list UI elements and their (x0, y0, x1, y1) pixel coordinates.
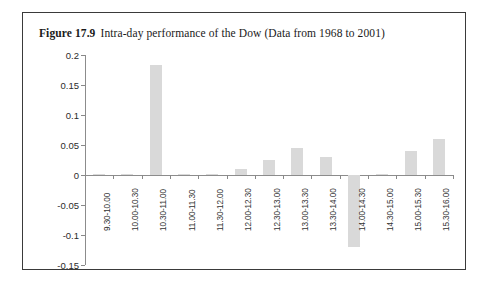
y-axis-tick (81, 85, 85, 86)
y-axis-tick (81, 265, 85, 266)
bar (121, 174, 133, 175)
bar (291, 148, 303, 175)
bar (376, 174, 388, 175)
x-axis-tick (198, 175, 199, 179)
bar (405, 151, 417, 175)
figure-caption: Figure 17.9Intra-day performance of the … (39, 27, 385, 39)
y-axis-tick-label: -0.15 (19, 260, 79, 271)
y-axis-tick-label: 0.1 (19, 110, 79, 121)
bar (93, 174, 105, 175)
x-axis-category-label: 10.00-10.30 (131, 188, 140, 231)
x-axis-category-label: 15.30-16.00 (442, 188, 451, 231)
x-axis-tick (283, 175, 284, 179)
x-axis-tick (340, 175, 341, 179)
bar (235, 169, 247, 175)
x-axis-category-label: 13.30-14.00 (329, 188, 338, 231)
x-axis-tick (396, 175, 397, 179)
x-axis-tick (255, 175, 256, 179)
x-axis-tick (368, 175, 369, 179)
y-axis-tick (81, 145, 85, 146)
y-axis-tick-label: 0 (19, 170, 79, 181)
y-axis-tick (81, 55, 85, 56)
x-axis-tick (113, 175, 114, 179)
bar (178, 174, 190, 175)
x-axis-category-label: 12.00-12.30 (244, 188, 253, 231)
x-axis-category-label: 12.30-13.00 (273, 188, 282, 231)
y-axis-tick-label: -0.1 (19, 230, 79, 241)
chart-plot-area: 0.20.150.10.050-0.05-0.1-0.159.30-10.001… (85, 55, 453, 265)
x-axis-category-label: 14.30-15.00 (386, 188, 395, 231)
bar (206, 174, 218, 175)
bar (263, 160, 275, 175)
bar (433, 139, 445, 175)
x-axis-category-label: 15.00-15.30 (414, 188, 423, 231)
y-axis-tick-label: 0.15 (19, 80, 79, 91)
x-axis-tick (425, 175, 426, 179)
x-axis-tick (142, 175, 143, 179)
figure-caption-text: Intra-day performance of the Dow (Data f… (100, 27, 384, 39)
y-axis-tick (81, 205, 85, 206)
figure-number: Figure 17.9 (39, 27, 95, 39)
y-axis-tick (81, 235, 85, 236)
x-axis-tick (453, 175, 454, 179)
figure-frame: Figure 17.9Intra-day performance of the … (22, 12, 466, 270)
x-axis-category-label: 10.30-11.00 (159, 189, 168, 231)
y-axis-tick-label: -0.05 (19, 200, 79, 211)
bar (320, 157, 332, 175)
x-axis-tick (311, 175, 312, 179)
x-axis-category-label: 9.30-10.00 (103, 193, 112, 231)
x-axis-category-label: 11.00-11.30 (188, 190, 197, 231)
y-axis-tick-label: 0.2 (19, 50, 79, 61)
zero-baseline (85, 175, 453, 176)
y-axis-tick-label: 0.05 (19, 140, 79, 151)
x-axis-category-label: 13.00-13.30 (301, 188, 310, 231)
x-axis-tick (227, 175, 228, 179)
y-axis-tick (81, 115, 85, 116)
x-axis-category-label: 14.00-14.30 (358, 188, 367, 231)
x-axis-tick (170, 175, 171, 179)
x-axis-category-label: 11.30-12.00 (216, 189, 225, 231)
bar (150, 65, 162, 175)
